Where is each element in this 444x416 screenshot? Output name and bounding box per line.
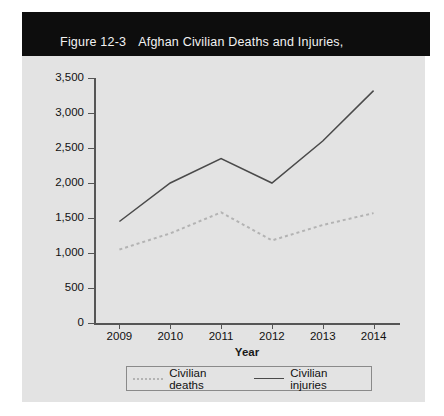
legend-line-dotted-icon (133, 374, 162, 383)
legend-entry-civilian-deaths: Civilian deaths (133, 367, 242, 391)
x-axis-tick-label: 2013 (300, 330, 346, 342)
chart-panel: Afghan civilian deaths and injuries 0500… (22, 56, 425, 402)
legend-entry-civilian-injuries: Civilian injuries (254, 367, 365, 391)
x-axis-line (94, 323, 400, 325)
series-line-civilian-injuries (119, 91, 373, 222)
y-axis-tick-label: 1,000 (36, 246, 84, 258)
y-axis-tick (88, 113, 94, 114)
y-axis-tick (88, 218, 94, 219)
y-axis-tick-label: 3,500 (36, 71, 84, 83)
x-axis-tick-label: 2009 (96, 330, 142, 342)
x-axis-tick-label: 2012 (249, 330, 295, 342)
figure-number: Figure 12-3 (60, 34, 126, 50)
y-axis-tick (88, 288, 94, 289)
series-line-civilian-deaths (119, 212, 373, 249)
x-axis-title: Year (94, 346, 400, 358)
x-axis-tick (119, 323, 120, 329)
y-axis-tick (88, 148, 94, 149)
y-axis-tick-label: 2,000 (36, 176, 84, 188)
legend-line-solid-icon (254, 374, 283, 383)
x-axis-tick-label: 2014 (351, 330, 397, 342)
figure-container: Figure 12-3Afghan Civilian Deaths and In… (22, 12, 430, 402)
y-axis-tick-label: 500 (36, 281, 84, 293)
y-axis-tick (88, 323, 94, 324)
x-axis-tick (170, 323, 171, 329)
y-axis-tick (88, 183, 94, 184)
y-axis-tick-label: 2,500 (36, 141, 84, 153)
x-axis-tick-label: 2010 (147, 330, 193, 342)
legend-label-civilian-injuries: Civilian injuries (290, 367, 365, 391)
x-axis-tick (272, 323, 273, 329)
figure-title-banner: Figure 12-3Afghan Civilian Deaths and In… (22, 12, 430, 56)
x-axis-tick (221, 323, 222, 329)
legend-label-civilian-deaths: Civilian deaths (169, 367, 242, 391)
x-axis-tick-label: 2011 (198, 330, 244, 342)
chart-legend: Civilian deaths Civilian injuries (126, 366, 372, 391)
plot-area: 05001,0001,5002,0002,5003,0003,500200920… (94, 78, 399, 323)
y-axis-tick-label: 3,000 (36, 106, 84, 118)
figure-title-line1: Afghan Civilian Deaths and Injuries, (138, 34, 343, 50)
y-axis-tick (88, 253, 94, 254)
y-axis-tick-label: 1,500 (36, 211, 84, 223)
y-axis-tick-label: 0 (36, 316, 84, 328)
x-axis-tick (374, 323, 375, 329)
series-lines (94, 78, 399, 323)
x-axis-tick (323, 323, 324, 329)
y-axis-tick (88, 78, 94, 79)
